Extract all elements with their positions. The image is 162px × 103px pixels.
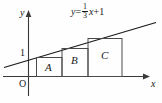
function-line (4, 23, 156, 68)
equation-label: y = 1 3 x + 1 (71, 3, 104, 20)
equation-equals: = (75, 7, 81, 17)
origin-label: O (19, 79, 26, 89)
y-tick-label-1: 1 (20, 48, 25, 58)
math-figure: y x O 1 A B C y = 1 3 x + 1 (0, 0, 162, 103)
y-axis-label: y (20, 8, 24, 18)
y-axis-arrow-icon (26, 10, 32, 17)
x-axis-label: x (151, 79, 155, 89)
rectangle-c-label: C (101, 50, 108, 61)
equation-denominator: 3 (82, 12, 88, 20)
y-axis (26, 10, 32, 96)
rectangle-b-label: B (71, 55, 78, 66)
rectangle-a-label: A (45, 62, 52, 73)
equation-numerator: 1 (82, 3, 88, 11)
x-axis-arrow-icon (143, 74, 150, 80)
equation-fraction: 1 3 (82, 3, 88, 20)
equation-constant: 1 (99, 7, 104, 17)
